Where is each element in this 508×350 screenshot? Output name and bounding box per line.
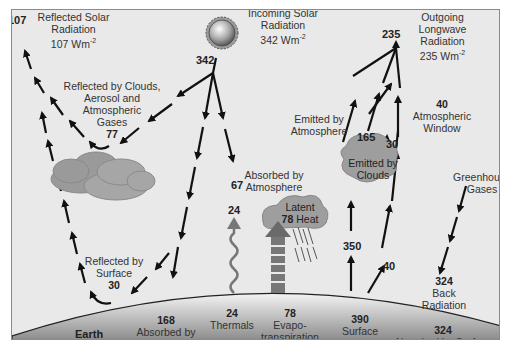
absorbed-atmosphere-label: Absorbed by Atmosphere xyxy=(244,169,304,193)
latent-heat-label: Latent 78 Heat xyxy=(275,201,325,225)
thermals-arrow xyxy=(227,217,241,293)
reflected-surface-label: Reflected by Surface 30 xyxy=(82,255,146,291)
thermals-top-value: 24 xyxy=(228,204,240,216)
sun-icon xyxy=(206,17,238,49)
reflected-solar-label: Reflected Solar Radiation 107 Wm-2 xyxy=(31,11,116,50)
back-radiation-label: 324 Back Radiation xyxy=(414,275,474,311)
absorbed-surface-324-label: 324 Absorbed by Surface xyxy=(390,324,496,340)
atmospheric-window-label: 40 Atmospheric Window xyxy=(412,98,472,134)
reflected-solar-value: 107 xyxy=(11,14,26,26)
surface-radiation-label: 390 Surface Radiation xyxy=(330,313,390,340)
emitted-atmosphere-value: 165 xyxy=(357,131,375,143)
reflected-clouds-label: Reflected by Clouds, Aerosol and Atmosph… xyxy=(52,80,172,140)
outgoing-longwave-value: 235 xyxy=(382,28,400,40)
surface-rad-350-value: 350 xyxy=(343,240,361,252)
back-radiation-arrows xyxy=(440,186,466,273)
emitted-clouds-label: Emitted by Clouds xyxy=(346,157,400,181)
absorbed-atmosphere-value: 67 xyxy=(231,179,243,191)
outgoing-longwave-label: Outgoing Longwave Radiation 235 Wm-2 xyxy=(410,11,475,62)
thermals-label: 24 Thermals xyxy=(207,307,257,331)
evapotranspiration-arrow xyxy=(265,221,291,293)
absorbed-surface-168-label: 168 Absorbed by Surface xyxy=(133,314,199,340)
surface-rad-40-value: 40 xyxy=(383,260,395,272)
incoming-solar-value: 342 xyxy=(196,54,214,66)
evapotranspiration-label: 78 Evapo- transpiration xyxy=(255,307,325,340)
rain-icon xyxy=(293,227,317,262)
emitted-atmosphere-label: Emitted by Atmosphere xyxy=(286,113,352,137)
incoming-solar-label: Incoming Solar Radiation 342 Wm-2 xyxy=(243,9,323,46)
emitted-clouds-value: 30 xyxy=(386,138,398,150)
greenhouse-gases-label: Greenhouse Gases xyxy=(452,171,500,195)
diagram-frame: 107 Reflected Solar Radiation 107 Wm-2 I… xyxy=(11,9,500,340)
earth-label: Earth xyxy=(75,328,103,340)
